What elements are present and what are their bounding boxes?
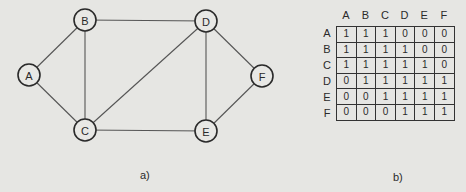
matrix-row-header: D — [320, 75, 334, 87]
matrix-row-header: B — [320, 43, 334, 55]
matrix-cell: 1 — [337, 27, 357, 43]
matrix-cell: 0 — [337, 89, 357, 105]
matrix-cell: 1 — [376, 89, 396, 105]
matrix-cell: 1 — [376, 27, 396, 43]
matrix-cell: 1 — [434, 73, 454, 89]
matrix-cell: 1 — [415, 104, 435, 120]
node-d: D — [195, 10, 217, 32]
node-label: E — [202, 126, 209, 138]
matrix-cell: 1 — [376, 73, 396, 89]
matrix-cell: 1 — [395, 89, 415, 105]
matrix-cell: 0 — [376, 104, 396, 120]
matrix-cell: 1 — [434, 104, 454, 120]
matrix-cell: 1 — [415, 73, 435, 89]
matrix-cell: 1 — [376, 42, 396, 58]
graph-diagram: ABCDEF — [0, 0, 300, 192]
matrix-row: 0 1 1 1 1 1 — [337, 73, 455, 89]
node-label: A — [25, 70, 33, 82]
matrix-row-header: C — [320, 59, 334, 71]
matrix-cell: 1 — [395, 58, 415, 74]
node-f: F — [251, 65, 273, 87]
matrix-row: 1 1 1 1 0 0 — [337, 42, 455, 58]
matrix-col-header: F — [434, 9, 454, 21]
matrix-cell: 1 — [434, 89, 454, 105]
matrix-cell: 0 — [337, 73, 357, 89]
matrix-cell: 0 — [415, 27, 435, 43]
matrix-cell: 0 — [356, 104, 376, 120]
matrix-cell: 0 — [434, 42, 454, 58]
matrix-col-header: A — [336, 9, 356, 21]
node-b: B — [74, 9, 96, 31]
node-label: B — [81, 15, 88, 27]
node-label: C — [81, 125, 89, 137]
graph-edges — [29, 20, 262, 131]
matrix-cell: 1 — [356, 27, 376, 43]
matrix-cell: 1 — [415, 89, 435, 105]
matrix-cell: 0 — [415, 42, 435, 58]
node-label: D — [202, 16, 210, 28]
matrix-cell: 1 — [395, 104, 415, 120]
matrix-cell: 1 — [415, 58, 435, 74]
matrix-row: 0 0 0 1 1 1 — [337, 104, 455, 120]
matrix-cell: 0 — [434, 58, 454, 74]
matrix-cell: 1 — [356, 58, 376, 74]
matrix-row: 1 1 1 0 0 0 — [337, 27, 455, 43]
node-c: C — [74, 119, 96, 141]
matrix-row-header: A — [320, 27, 334, 39]
node-a: A — [18, 64, 40, 86]
edge-c-d — [85, 21, 206, 130]
matrix-row: 1 1 1 1 1 0 — [337, 58, 455, 74]
matrix-row-header: E — [320, 91, 334, 103]
matrix-cell: 0 — [337, 104, 357, 120]
graph-caption: a) — [140, 169, 150, 181]
matrix-cell: 1 — [356, 42, 376, 58]
matrix-row-header: F — [320, 107, 334, 119]
node-label: F — [259, 71, 266, 83]
matrix-col-header: D — [395, 9, 415, 21]
matrix-cell: 1 — [395, 73, 415, 89]
matrix-cell: 1 — [337, 42, 357, 58]
matrix-cell: 1 — [395, 42, 415, 58]
matrix-col-header: E — [414, 9, 434, 21]
node-e: E — [195, 120, 217, 142]
matrix-col-header: C — [375, 9, 395, 21]
matrix-grid: 1 1 1 0 0 0 1 1 1 1 0 0 1 1 1 1 1 0 — [336, 26, 455, 121]
matrix-caption: b) — [393, 171, 403, 183]
edge-b-d — [85, 20, 206, 21]
matrix-cell: 1 — [356, 73, 376, 89]
matrix-cell: 0 — [395, 27, 415, 43]
matrix-row: 0 0 1 1 1 1 — [337, 89, 455, 105]
matrix-cell: 1 — [376, 58, 396, 74]
matrix-cell: 0 — [356, 89, 376, 105]
matrix-col-header: B — [356, 9, 376, 21]
edge-c-e — [85, 130, 206, 131]
matrix-cell: 1 — [337, 58, 357, 74]
matrix-cell: 0 — [434, 27, 454, 43]
